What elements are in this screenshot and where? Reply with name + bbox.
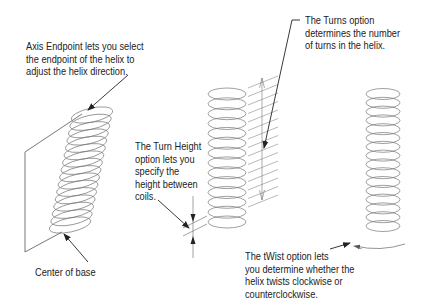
turns-hatch-lines	[248, 76, 278, 207]
tilted-helix-group	[25, 104, 114, 252]
tilted-helix-coils	[48, 104, 114, 236]
twist-direction-arrow	[355, 244, 405, 249]
turn-height-leader	[158, 200, 189, 228]
twist-helix-coils	[366, 89, 400, 232]
twist-leader	[330, 243, 350, 249]
turn-height-indicator	[183, 196, 207, 258]
axis-endpoint-leader	[88, 75, 128, 110]
center-of-base-leader	[64, 234, 88, 262]
turn-height-callout: The Turn Height option lets you specify …	[135, 140, 201, 203]
helix-options-diagram: Axis Endpoint lets you select the endpoi…	[0, 0, 421, 306]
turns-helix-coils	[208, 88, 246, 228]
axis-endpoint-callout: Axis Endpoint lets you select the endpoi…	[26, 40, 144, 78]
twist-callout: The tWist option lets you determine whet…	[245, 250, 354, 300]
twist-helix-group	[353, 89, 405, 250]
center-of-base-label: Center of base	[35, 266, 96, 279]
turns-callout: The Turns option determines the number o…	[305, 14, 400, 52]
turns-leader	[264, 20, 300, 148]
